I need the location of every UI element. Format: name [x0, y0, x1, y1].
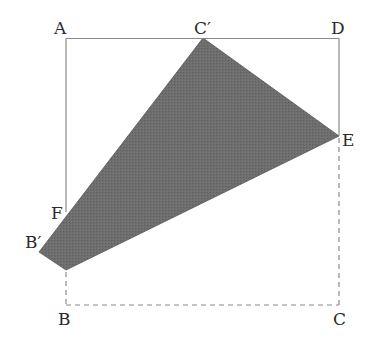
label-D: D	[331, 18, 345, 38]
label-B: B	[58, 309, 71, 329]
geometry-diagram: A C′ D E F B′ B C	[0, 0, 377, 351]
label-B-prime: B′	[25, 232, 41, 252]
folded-flap-shaded-region	[39, 38, 339, 270]
label-C-prime: C′	[194, 18, 211, 38]
label-C: C	[333, 309, 346, 329]
label-F: F	[51, 203, 63, 223]
label-E: E	[342, 130, 354, 150]
label-A: A	[53, 18, 67, 38]
